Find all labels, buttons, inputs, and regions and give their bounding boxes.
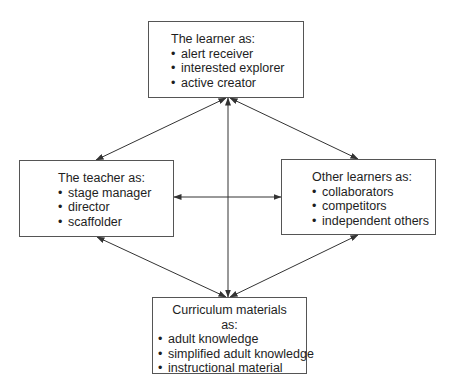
curriculum-title-line2: as: <box>158 318 306 333</box>
teacher-box: The teacher as: stage manager director s… <box>19 160 174 237</box>
curriculum-title-line1: Curriculum materials <box>158 303 306 318</box>
list-item: director <box>58 200 173 215</box>
arrow-others-curriculum <box>230 235 358 297</box>
list-item: collaborators <box>312 185 435 200</box>
arrow-learner-others <box>230 98 358 159</box>
list-item: stage manager <box>58 186 173 201</box>
list-item: instructional material <box>158 361 306 376</box>
other-learners-list: collaborators competitors independent ot… <box>312 185 435 229</box>
teacher-title: The teacher as: <box>58 171 173 186</box>
other-learners-box: Other learners as: collaborators competi… <box>281 159 436 235</box>
learner-box: The learner as: alert receiver intereste… <box>148 21 304 98</box>
list-item: scaffolder <box>58 215 173 230</box>
curriculum-list: adult knowledge simplified adult knowled… <box>158 332 306 376</box>
curriculum-box: Curriculum materials as: adult knowledge… <box>152 297 307 374</box>
list-item: competitors <box>312 199 435 214</box>
list-item: alert receiver <box>171 47 303 62</box>
list-item: interested explorer <box>171 61 303 76</box>
arrow-teacher-curriculum <box>97 237 226 297</box>
arrow-learner-teacher <box>96 98 226 160</box>
learner-title: The learner as: <box>171 32 303 47</box>
list-item: active creator <box>171 76 303 91</box>
other-learners-title: Other learners as: <box>312 170 435 185</box>
list-item: simplified adult knowledge <box>158 347 306 362</box>
list-item: independent others <box>312 214 435 229</box>
list-item: adult knowledge <box>158 332 306 347</box>
teacher-list: stage manager director scaffolder <box>58 186 173 230</box>
learner-list: alert receiver interested explorer activ… <box>171 47 303 91</box>
